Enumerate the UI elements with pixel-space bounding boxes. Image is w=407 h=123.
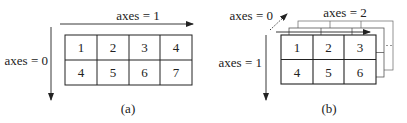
axis-1-label: axes = 1 bbox=[116, 8, 159, 23]
cell: 4 bbox=[294, 65, 301, 80]
axis-0-label: axes = 0 bbox=[5, 53, 48, 68]
cell: 2 bbox=[110, 40, 117, 55]
cell: 1 bbox=[78, 40, 85, 55]
axis-1-label: axes = 1 bbox=[219, 55, 262, 70]
cell: 2 bbox=[325, 40, 332, 55]
cell: 5 bbox=[110, 65, 117, 80]
cell: 4 bbox=[78, 65, 85, 80]
cell: 5 bbox=[325, 65, 332, 80]
caption-a: (a) bbox=[121, 101, 135, 116]
cell: 6 bbox=[141, 65, 148, 80]
panel-a: axes = 1 axes = 0 1 2 3 4 4 5 6 7 (a) bbox=[5, 8, 193, 116]
panel-b: axes = 2 axes = 0 axes = 1 1 2 3 4 5 6 (… bbox=[219, 5, 393, 116]
axis-2-label: axes = 2 bbox=[323, 5, 366, 20]
array-axes-diagram: axes = 1 axes = 0 1 2 3 4 4 5 6 7 (a) bbox=[0, 0, 407, 123]
cell: 1 bbox=[294, 40, 301, 55]
caption-b: (b) bbox=[321, 101, 336, 116]
axis-0-label: axes = 0 bbox=[230, 8, 273, 23]
cell: 7 bbox=[173, 65, 180, 80]
cell: 3 bbox=[141, 40, 148, 55]
cell: 4 bbox=[173, 40, 180, 55]
cell: 3 bbox=[357, 40, 364, 55]
cell: 6 bbox=[357, 65, 364, 80]
